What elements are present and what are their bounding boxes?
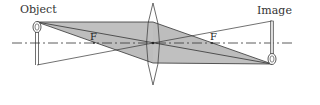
focal-point-left [93, 42, 95, 44]
focal-label-right: F [210, 32, 217, 42]
image-label: Image [257, 5, 292, 16]
object-label: Object [20, 4, 57, 15]
focal-point-right [211, 42, 213, 44]
focal-label-left: F [90, 32, 97, 42]
lens-center [152, 42, 154, 44]
